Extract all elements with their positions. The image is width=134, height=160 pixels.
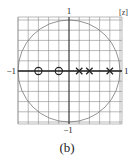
pole-zero-plot: 1 −1 −1 1 [z] — [0, 0, 134, 140]
label-bottom: −1 — [63, 125, 73, 135]
label-left: −1 — [6, 66, 16, 76]
figure-caption: (b) — [0, 140, 134, 156]
label-top: 1 — [67, 6, 72, 16]
label-right: 1 — [124, 66, 129, 76]
plane-label: [z] — [119, 8, 128, 17]
